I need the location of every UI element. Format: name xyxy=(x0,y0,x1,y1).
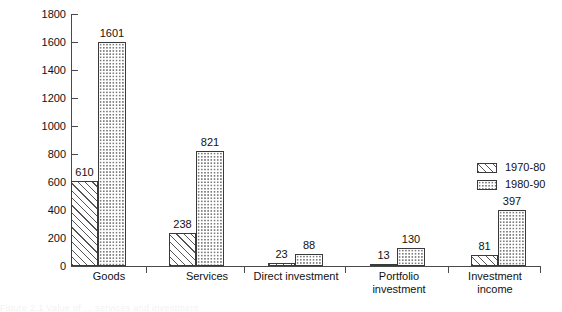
y-tick-label: 1200 xyxy=(22,93,66,104)
legend-label: 1970-80 xyxy=(505,161,545,174)
value-label-direct-investment-1980-90: 88 xyxy=(293,240,325,251)
x-category-label-line2: income xyxy=(477,283,512,295)
x-category-direct-investment: Direct investment xyxy=(248,270,344,283)
y-tick-label: 600 xyxy=(22,177,66,188)
x-category-label: Services xyxy=(186,270,228,282)
x-category-goods: Goods xyxy=(73,270,145,283)
legend-swatch-dots-icon xyxy=(477,180,497,190)
x-category-label-line2: investment xyxy=(372,283,425,295)
y-tick-label: 1400 xyxy=(22,65,66,76)
page-top-cut-text xyxy=(0,0,562,8)
value-label-portfolio-investment-1980-90: 130 xyxy=(395,234,427,245)
bar-direct-investment-1970-80 xyxy=(268,263,295,266)
legend-label: 1980-90 xyxy=(505,178,545,191)
y-tick-label: 0 xyxy=(22,261,66,272)
value-label-portfolio-investment-1970-80: 13 xyxy=(368,250,399,261)
value-label-services-1970-80: 238 xyxy=(167,219,198,230)
y-tick-label: 1800 xyxy=(22,9,66,20)
bar-direct-investment-1980-90 xyxy=(295,254,323,266)
bar-services-1980-90 xyxy=(196,151,224,266)
bar-portfolio-investment-1980-90 xyxy=(397,248,425,266)
y-tick-label: 1600 xyxy=(22,37,66,48)
x-category-services: Services xyxy=(171,270,243,283)
legend-swatch-hatch-icon xyxy=(477,163,497,173)
value-label-goods-1970-80: 610 xyxy=(69,167,100,178)
page-bottom-cut-text: Figure 2.1 Value of ... services and inv… xyxy=(0,303,562,311)
y-tick-label: 400 xyxy=(22,205,66,216)
bar-chart: 1800 1600 1400 1200 1000 800 600 400 200… xyxy=(0,0,562,312)
x-category-investment-income: Investment income xyxy=(450,270,540,296)
x-axis-line xyxy=(71,266,541,267)
value-label-services-1980-90: 821 xyxy=(194,137,226,148)
y-tick-label: 1000 xyxy=(22,121,66,132)
value-label-investment-income-1980-90: 397 xyxy=(496,196,528,207)
x-category-label: Portfolio xyxy=(379,270,419,282)
value-label-goods-1980-90: 1601 xyxy=(96,28,128,39)
bar-goods-1970-80 xyxy=(71,181,98,266)
bar-investment-income-1970-80 xyxy=(471,255,498,266)
y-tick-label: 200 xyxy=(22,233,66,244)
bar-goods-1980-90 xyxy=(98,42,126,266)
bar-investment-income-1980-90 xyxy=(498,210,526,266)
value-label-investment-income-1970-80: 81 xyxy=(469,241,500,252)
x-category-label: Direct investment xyxy=(254,270,339,282)
bar-services-1970-80 xyxy=(169,233,196,266)
bar-portfolio-investment-1970-80 xyxy=(370,264,397,266)
x-category-label: Investment xyxy=(468,270,522,282)
plot-area: 610 1601 238 821 23 88 13 130 81 397 xyxy=(71,14,541,266)
x-category-label: Goods xyxy=(93,270,125,282)
x-category-portfolio-investment: Portfolio investment xyxy=(352,270,446,296)
y-tick-label: 800 xyxy=(22,149,66,160)
